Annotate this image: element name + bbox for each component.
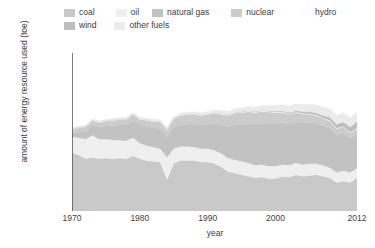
legend-row: wind other fuels: [60, 19, 370, 32]
legend-item-oil: oil: [116, 8, 140, 17]
plot-area: [72, 53, 357, 211]
legend-label-nuclear: nuclear: [246, 8, 274, 17]
legend-label-natural-gas: natural gas: [167, 8, 209, 17]
legend-item-other-fuels: other fuels: [114, 21, 169, 30]
legend-item-wind: wind: [64, 21, 96, 30]
energy-resource-area-chart: coal oil natural gas nuclear hydro: [0, 0, 375, 248]
legend-label-oil: oil: [131, 8, 140, 17]
x-tick-label: 1990: [198, 213, 217, 223]
legend-swatch-coal: [64, 9, 75, 17]
legend-label-other-fuels: other fuels: [129, 21, 169, 30]
legend-item-natural-gas: natural gas: [152, 8, 209, 17]
x-axis-title: year: [72, 228, 358, 238]
legend-label-coal: coal: [79, 8, 95, 17]
legend-swatch-nuclear: [231, 9, 242, 17]
x-tick-label: 1980: [130, 213, 149, 223]
x-tick-label: 2012: [348, 213, 367, 223]
y-axis-title: amount of energy resource used (toe): [19, 16, 30, 168]
legend-item-coal: coal: [64, 8, 95, 17]
legend-swatch-natural-gas: [152, 9, 163, 17]
legend-swatch-wind: [64, 22, 75, 30]
chart-legend: coal oil natural gas nuclear hydro: [60, 6, 370, 32]
legend-label-wind: wind: [79, 21, 96, 30]
legend-row: coal oil natural gas nuclear hydro: [60, 6, 370, 19]
stacked-area-svg: [72, 53, 357, 211]
legend-swatch-other-fuels: [114, 22, 125, 30]
legend-item-nuclear: nuclear: [231, 8, 274, 17]
legend-item-hydro: hydro: [300, 8, 336, 17]
x-tick-label: 1970: [63, 213, 82, 223]
legend-label-hydro: hydro: [315, 8, 336, 17]
x-tick-label: 2000: [266, 213, 285, 223]
legend-swatch-hydro: [300, 9, 311, 17]
legend-swatch-oil: [116, 9, 127, 17]
